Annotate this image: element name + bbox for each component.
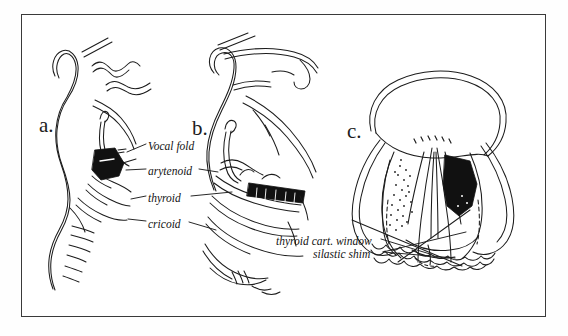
panel-letter-b: b. (192, 118, 208, 139)
figure-border-frame (21, 14, 546, 317)
label-cricoid: cricoid (148, 218, 181, 231)
label-arytenoid: arytenoid (148, 165, 192, 178)
panel-letter-c: c. (347, 121, 362, 142)
label-silastic-shim: silastic shim (313, 248, 370, 261)
panel-letter-a: a. (39, 115, 54, 136)
label-thyroid-cart-window: thyroid cart. window (276, 235, 372, 248)
label-vocal-fold: Vocal fold (148, 140, 194, 153)
figure-root: a. b. c. Vocal fold arytenoid thyroid cr… (0, 0, 568, 336)
label-thyroid: thyroid (148, 192, 181, 205)
